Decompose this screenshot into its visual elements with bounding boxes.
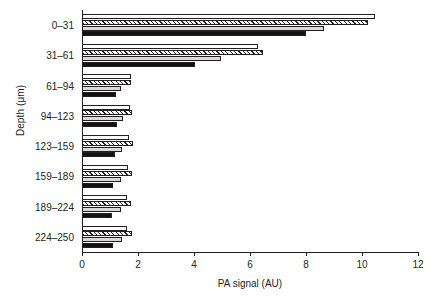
x-tick-label: 10 bbox=[342, 259, 382, 270]
bar-hatched bbox=[82, 141, 133, 146]
x-tick-mark bbox=[306, 252, 307, 256]
x-tick-label: 2 bbox=[118, 259, 158, 270]
bar-white bbox=[82, 105, 130, 110]
bar-black bbox=[82, 213, 112, 218]
y-tick-label: 61–94 bbox=[2, 80, 74, 91]
bar-black bbox=[82, 152, 115, 157]
bar-black bbox=[82, 31, 306, 36]
bar-hatched bbox=[82, 171, 132, 176]
bar-black bbox=[82, 92, 116, 97]
x-axis-title: PA signal (AU) bbox=[82, 278, 418, 289]
y-tick-label: 189–224 bbox=[2, 201, 74, 212]
bar-group bbox=[82, 192, 418, 222]
x-tick-label: 4 bbox=[174, 259, 214, 270]
bar-black bbox=[82, 183, 113, 188]
bar-hatched bbox=[82, 80, 131, 85]
bar-gray bbox=[82, 56, 221, 61]
bar-gray bbox=[82, 147, 122, 152]
bar-group bbox=[82, 161, 418, 191]
x-tick-mark bbox=[194, 252, 195, 256]
x-tick-mark bbox=[138, 252, 139, 256]
bar-white bbox=[82, 165, 128, 170]
bar-group bbox=[82, 222, 418, 252]
x-tick-label: 0 bbox=[62, 259, 102, 270]
bar-white bbox=[82, 74, 131, 79]
bar-hatched bbox=[82, 231, 132, 236]
bar-white bbox=[82, 44, 258, 49]
y-tick-label: 94–123 bbox=[2, 110, 74, 121]
bar-gray bbox=[82, 26, 324, 31]
bar-hatched bbox=[82, 20, 368, 25]
bar-hatched bbox=[82, 110, 132, 115]
bar-gray bbox=[82, 237, 122, 242]
bar-white bbox=[82, 226, 127, 231]
bar-gray bbox=[82, 207, 121, 212]
bar-gray bbox=[82, 177, 121, 182]
bar-group bbox=[82, 131, 418, 161]
bar-hatched bbox=[82, 201, 131, 206]
bar-black bbox=[82, 122, 117, 127]
x-tick-mark bbox=[250, 252, 251, 256]
y-tick-label: 31–61 bbox=[2, 50, 74, 61]
bar-white bbox=[82, 14, 375, 19]
chart-figure: Depth (μm) 0–3131–6161–9494–123123–15915… bbox=[0, 0, 444, 302]
bar-white bbox=[82, 135, 129, 140]
bar-hatched bbox=[82, 50, 263, 55]
x-tick-label: 8 bbox=[286, 259, 326, 270]
bar-gray bbox=[82, 86, 121, 91]
bar-gray bbox=[82, 116, 123, 121]
bar-group bbox=[82, 71, 418, 101]
y-tick-label: 224–250 bbox=[2, 231, 74, 242]
x-tick-mark bbox=[82, 252, 83, 256]
y-tick-label: 0–31 bbox=[2, 20, 74, 31]
bar-group bbox=[82, 10, 418, 40]
bar-group bbox=[82, 40, 418, 70]
y-tick-label: 123–159 bbox=[2, 141, 74, 152]
x-tick-mark bbox=[362, 252, 363, 256]
x-tick-label: 6 bbox=[230, 259, 270, 270]
bar-group bbox=[82, 101, 418, 131]
bar-black bbox=[82, 243, 113, 248]
y-tick-label: 159–189 bbox=[2, 171, 74, 182]
x-tick-label: 12 bbox=[398, 259, 438, 270]
x-tick-mark bbox=[418, 252, 419, 256]
bar-white bbox=[82, 195, 127, 200]
bar-black bbox=[82, 62, 195, 67]
plot-area: 0–3131–6161–9494–123123–159159–189189–22… bbox=[82, 10, 418, 252]
